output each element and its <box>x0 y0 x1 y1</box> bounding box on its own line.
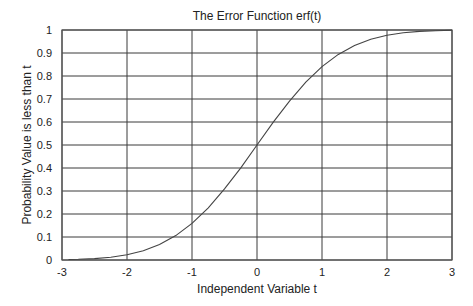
x-tick-label: 1 <box>319 266 325 278</box>
y-tick-label: 0.9 <box>37 47 52 59</box>
y-tick-label: 1 <box>46 24 52 36</box>
y-axis-label: Probability Value is less than t <box>20 65 34 225</box>
chart-svg: The Error Function erf(t) 00.10.20.30.40… <box>0 0 473 306</box>
y-tick-label: 0.3 <box>37 185 52 197</box>
x-tick-label: 3 <box>449 266 455 278</box>
x-tick-label: 2 <box>384 266 390 278</box>
y-tick-label: 0.4 <box>37 162 52 174</box>
y-tick-labels: 00.10.20.30.40.50.60.70.80.91 <box>37 24 52 266</box>
chart: The Error Function erf(t) 00.10.20.30.40… <box>0 0 473 306</box>
y-tick-label: 0.6 <box>37 116 52 128</box>
chart-title: The Error Function erf(t) <box>193 9 322 23</box>
y-tick-label: 0.5 <box>37 139 52 151</box>
x-tick-label: -3 <box>57 266 67 278</box>
x-tick-labels: -3-2-10123 <box>57 266 455 278</box>
x-tick-label: 0 <box>254 266 260 278</box>
y-tick-label: 0 <box>46 254 52 266</box>
x-axis-label: Independent Variable t <box>197 282 318 296</box>
y-tick-label: 0.2 <box>37 208 52 220</box>
x-tick-label: -1 <box>187 266 197 278</box>
y-tick-label: 0.7 <box>37 93 52 105</box>
y-tick-label: 0.8 <box>37 70 52 82</box>
x-tick-label: -2 <box>122 266 132 278</box>
y-tick-label: 0.1 <box>37 231 52 243</box>
